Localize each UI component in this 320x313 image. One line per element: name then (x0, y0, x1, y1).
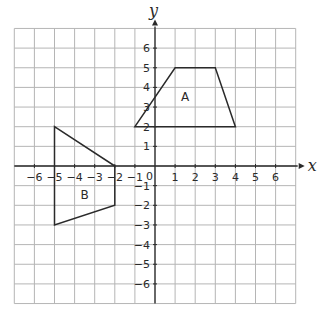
x-tick-label: −4 (66, 171, 82, 184)
shape-label-a: A (181, 90, 190, 104)
y-tick-label: 1 (143, 140, 150, 153)
y-tick-label: −2 (134, 199, 150, 212)
x-axis-label: x (308, 156, 317, 175)
x-tick-label: −6 (26, 171, 42, 184)
origin-label: 0 (146, 170, 153, 183)
x-tick-label: −3 (87, 171, 103, 184)
shape-label-b: B (81, 188, 89, 202)
x-tick-label: 1 (172, 171, 179, 184)
y-tick-label: 2 (143, 121, 150, 134)
x-tick-label: −2 (107, 171, 123, 184)
y-tick-label: −5 (134, 258, 150, 271)
x-tick-label: 2 (192, 171, 199, 184)
x-axis-arrow-icon (299, 163, 305, 169)
x-tick-label: 4 (232, 171, 239, 184)
axes: xy (14, 1, 316, 303)
y-tick-label: 6 (143, 42, 150, 55)
x-tick-label: 5 (252, 171, 259, 184)
y-tick-label: 4 (143, 81, 150, 94)
y-tick-label: −4 (134, 239, 150, 252)
x-tick-label: 6 (272, 171, 279, 184)
y-axis-label: y (148, 1, 159, 20)
x-tick-label: 3 (212, 171, 219, 184)
y-tick-label: 5 (143, 62, 150, 75)
y-tick-label: −6 (134, 278, 150, 291)
x-tick-label: −5 (46, 171, 62, 184)
coordinate-grid: xy AB −6−5−4−3−2−1123456654321−1−2−3−4−5… (0, 0, 320, 313)
y-tick-label: 3 (143, 101, 150, 114)
y-tick-label: −3 (134, 219, 150, 232)
